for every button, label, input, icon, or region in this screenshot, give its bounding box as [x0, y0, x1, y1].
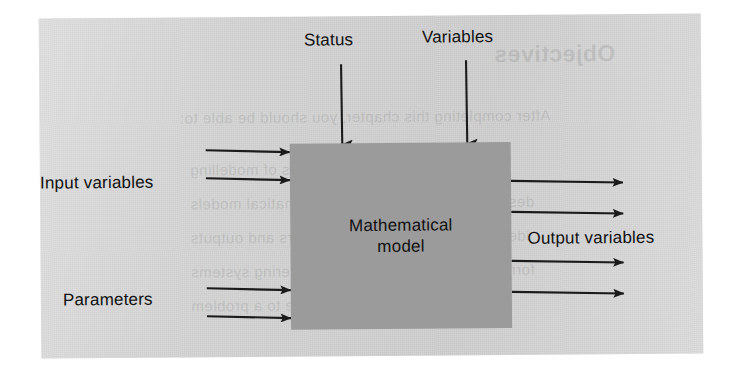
arrow-output-variables — [512, 291, 624, 294]
arrow-variables — [466, 60, 467, 143]
label-output-variables: Output variables — [527, 228, 654, 249]
arrow-output-variables — [511, 180, 623, 183]
label-parameters: Parameters — [63, 290, 153, 311]
model-label-line-2: model — [377, 237, 424, 256]
diagram-content: Mathematical model Status Variables Inpu… — [39, 13, 704, 358]
label-status: Status — [304, 30, 354, 50]
arrow-input-variables — [206, 178, 290, 181]
arrow-output-variables — [511, 211, 623, 214]
arrow-parameters — [207, 288, 291, 291]
arrow-status — [341, 64, 342, 144]
scanned-page-panel: Objectives After completing this chapter… — [39, 13, 704, 358]
mathematical-model-box: Mathematical model — [290, 142, 512, 330]
label-input-variables: Input variables — [40, 173, 154, 194]
label-variables: Variables — [422, 27, 494, 48]
arrow-parameters — [207, 316, 291, 319]
arrow-input-variables — [206, 150, 290, 153]
arrow-output-variables — [512, 260, 624, 263]
model-label-line-1: Mathematical — [349, 215, 453, 235]
figure-root: Objectives After completing this chapter… — [0, 0, 733, 380]
mathematical-model-label: Mathematical model — [349, 214, 453, 257]
